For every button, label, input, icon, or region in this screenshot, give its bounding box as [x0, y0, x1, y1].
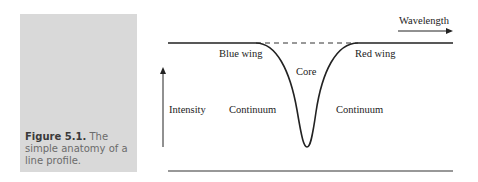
- continuum-right-label: Continuum: [336, 104, 383, 115]
- continuum-left-label: Continuum: [229, 104, 276, 115]
- red-wing-label: Red wing: [355, 48, 396, 59]
- wavelength-label: Wavelength: [399, 15, 450, 26]
- line-profile-curve: [168, 43, 453, 147]
- intensity-label: Intensity: [169, 104, 206, 115]
- wavelength-arrowhead-icon: [446, 28, 453, 34]
- core-label: Core: [296, 66, 317, 77]
- intensity-arrowhead-icon: [160, 67, 166, 74]
- line-profile-diagram: Wavelength Blue wing Red wing Core Inten…: [0, 0, 478, 182]
- blue-wing-label: Blue wing: [219, 48, 263, 59]
